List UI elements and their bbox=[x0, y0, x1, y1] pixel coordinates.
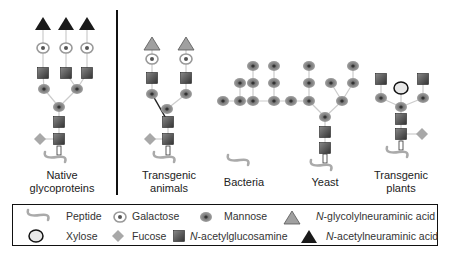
label-line: plants bbox=[346, 182, 451, 195]
legend-neuac: N-acetylneuraminic acid bbox=[326, 230, 438, 242]
legend-galactose: Galactose bbox=[132, 210, 179, 222]
italic-n: N bbox=[326, 230, 334, 242]
legend-glcnac-text: -acetylglucosamine bbox=[198, 230, 288, 242]
legend-mannose: Mannose bbox=[224, 210, 267, 222]
legend-neuac-text: -acetylneuraminic acid bbox=[334, 230, 438, 242]
legend-xylose: Xylose bbox=[66, 230, 98, 242]
bacteria-peptide bbox=[228, 155, 249, 165]
legend-glcnac: N-acetylglucosamine bbox=[190, 230, 287, 242]
legend-fucose: Fucose bbox=[132, 230, 166, 242]
label-line: Native bbox=[7, 169, 117, 182]
italic-n: N bbox=[190, 230, 198, 242]
yeast-glycan bbox=[217, 61, 359, 170]
legend-neugc: N-glycolylneuraminic acid bbox=[316, 210, 435, 222]
transgenic-plants-glycan bbox=[375, 74, 429, 158]
legend-neugc-text: -glycolylneuraminic acid bbox=[324, 210, 435, 222]
label-line: glycoproteins bbox=[7, 182, 117, 195]
legend-peptide: Peptide bbox=[66, 210, 102, 222]
transgenic-animals-glycan bbox=[144, 37, 194, 162]
italic-n: N bbox=[316, 210, 324, 222]
label-transgenic-plants: Transgenic plants bbox=[346, 169, 451, 195]
label-native: Native glycoproteins bbox=[7, 169, 117, 195]
label-line: Transgenic bbox=[346, 169, 451, 182]
